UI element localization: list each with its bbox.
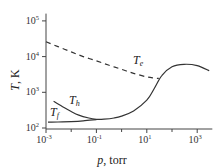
series <box>46 42 209 122</box>
series-label-te: Te <box>133 53 144 68</box>
x-tick-label: 10-1 <box>87 133 102 145</box>
x-axis-title: p, torr <box>96 153 126 167</box>
y-tick-label: 103 <box>26 85 39 97</box>
x-tick-label: 103 <box>189 133 202 145</box>
series-label-th: Th <box>69 93 80 108</box>
y-tick-label: 105 <box>26 14 39 26</box>
y-tick-label: 102 <box>26 121 39 133</box>
x-tick-label: 10-3 <box>36 133 51 145</box>
chart: 10-310-1101103102103104105 TeThTf p, tor… <box>0 0 224 168</box>
series-label-tf: Tf <box>50 105 61 120</box>
series-labels: TeThTf <box>50 53 144 120</box>
series-line-tf <box>48 120 96 123</box>
x-axis-title-rest: , torr <box>103 153 126 167</box>
y-axis-title: T, K <box>8 69 22 91</box>
y-tick-label: 104 <box>26 50 40 62</box>
x-tick-label: 101 <box>138 133 151 145</box>
tick-labels: 10-310-1101103102103104105 <box>26 14 202 145</box>
